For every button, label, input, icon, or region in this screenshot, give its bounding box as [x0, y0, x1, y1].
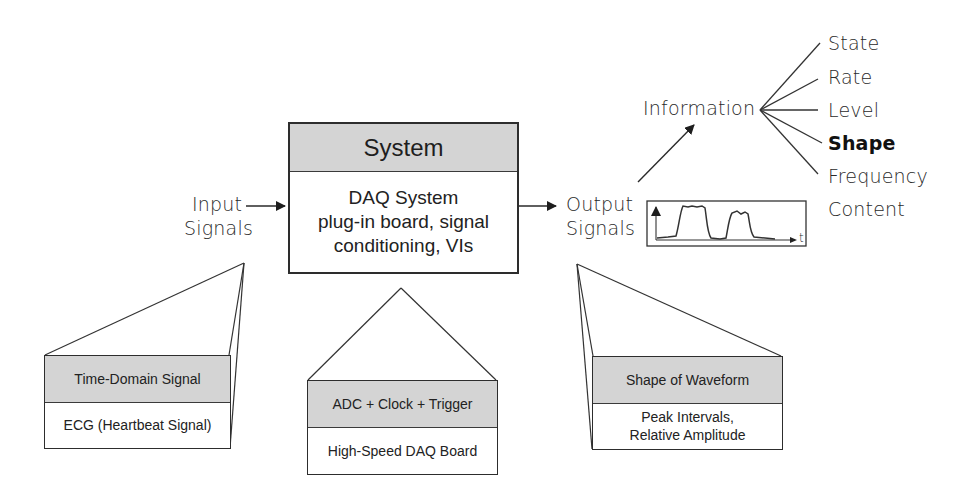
system-box-line3: conditioning, VIs	[334, 234, 473, 258]
input-label-line2: Signals	[184, 217, 253, 239]
system-detail-header: ADC + Clock + Trigger	[308, 381, 497, 428]
output-detail-body-line1: Peak Intervals,	[641, 408, 734, 426]
info-item-rate: Rate	[828, 66, 872, 88]
output-detail-header: Shape of Waveform	[593, 357, 782, 404]
info-item-shape: Shape	[828, 132, 896, 154]
system-box-line2: plug-in board, signal	[318, 210, 489, 234]
input-label-line1: Input	[192, 193, 253, 215]
info-item-frequency: Frequency	[828, 165, 928, 187]
output-detail-body-line2: Relative Amplitude	[630, 426, 746, 444]
system-callout-lines	[308, 288, 496, 380]
system-box-title: System	[290, 124, 517, 172]
output-label-line1: Output	[566, 193, 635, 215]
input-detail-body: ECG (Heartbeat Signal)	[45, 403, 230, 447]
output-signals-label: Output Signals	[566, 193, 635, 239]
input-detail-box: Time-Domain Signal ECG (Heartbeat Signal…	[44, 355, 231, 449]
input-signals-label: Input Signals	[192, 193, 253, 239]
information-fan	[760, 43, 822, 174]
info-item-state: State	[828, 32, 879, 54]
info-item-level: Level	[828, 99, 879, 121]
output-label-line2: Signals	[566, 217, 635, 239]
waveform-plot	[647, 201, 806, 246]
system-box: System DAQ System plug-in board, signal …	[288, 122, 519, 274]
waveform-time-axis-label: t	[799, 231, 804, 245]
output-detail-box: Shape of Waveform Peak Intervals, Relati…	[592, 356, 783, 450]
info-item-content: Content	[828, 198, 905, 220]
system-box-line1: DAQ System	[349, 186, 459, 210]
information-label: Information	[643, 97, 755, 119]
input-detail-header: Time-Domain Signal	[45, 356, 230, 403]
system-detail-box: ADC + Clock + Trigger High-Speed DAQ Boa…	[307, 380, 498, 475]
system-detail-body: High-Speed DAQ Board	[308, 428, 497, 473]
information-arrow	[638, 125, 694, 182]
